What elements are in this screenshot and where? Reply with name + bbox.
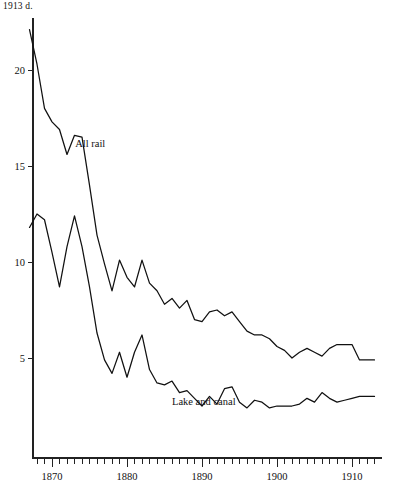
line-chart-plot: 5101520 18701880189019001910 All railLak…: [0, 0, 400, 486]
chart-axes: [33, 18, 382, 458]
y-tick-label: 5: [20, 353, 25, 364]
y-tick-label: 10: [15, 257, 26, 268]
series-line-all-rail: [30, 30, 375, 360]
x-tick-label: 1890: [192, 471, 213, 482]
x-axis-ticks: 18701880189019001910: [37, 458, 375, 482]
x-tick-label: 1900: [267, 471, 288, 482]
x-tick-label: 1910: [342, 471, 363, 482]
x-tick-label: 1870: [42, 471, 63, 482]
series-label-all-rail: All rail: [75, 138, 105, 149]
chart-series-group: [30, 30, 375, 408]
y-tick-label: 15: [15, 161, 26, 172]
series-label-lake-and-canal: Lake and canal: [172, 396, 236, 407]
chart-annotations: All railLake and canal: [75, 138, 235, 407]
axis-lines: [33, 18, 382, 458]
series-line-lake-and-canal: [30, 214, 375, 408]
y-tick-label: 20: [15, 65, 26, 76]
x-tick-label: 1880: [117, 471, 138, 482]
chart-figure: 1913 d. 5101520 18701880189019001910 All…: [0, 0, 400, 486]
y-axis-ticks: 5101520: [15, 65, 34, 364]
